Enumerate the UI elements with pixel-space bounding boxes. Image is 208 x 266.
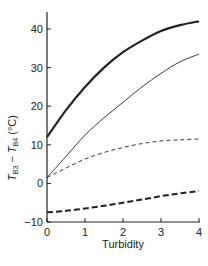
y-tick-label: 0 — [37, 177, 43, 189]
x-tick-label: 3 — [158, 226, 164, 238]
x-tick-label: 2 — [120, 226, 126, 238]
x-axis-label: Turbidity — [102, 238, 144, 250]
y-axis-label: TB3 − TB4 (°C) — [6, 115, 19, 181]
y-tick-label: 30 — [31, 62, 43, 74]
series-thick-solid — [47, 21, 199, 137]
y-tick-label: 10 — [31, 139, 43, 151]
y-tick-label: 40 — [31, 23, 43, 35]
series-thick-dashed — [47, 191, 199, 212]
x-tick-label: 4 — [196, 226, 202, 238]
y-tick-label: 20 — [31, 100, 43, 112]
x-tick-label: 0 — [44, 226, 50, 238]
chart: −10010203040 01234 Turbidity TB3 − TB4 (… — [0, 0, 208, 266]
series-thin-dashed — [47, 139, 199, 178]
series-thin-solid — [47, 54, 199, 178]
y-tick-label: −10 — [24, 216, 43, 228]
x-tick-label: 1 — [82, 226, 88, 238]
plot-series — [47, 21, 199, 212]
x-ticks: 01234 — [44, 218, 202, 238]
